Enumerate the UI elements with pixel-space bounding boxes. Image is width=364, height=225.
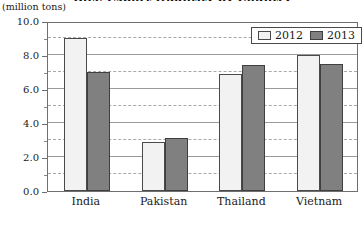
- bar-group: [48, 23, 126, 191]
- bar-group: [281, 23, 358, 191]
- bar-pakistan-2012[interactable]: [142, 142, 165, 191]
- legend-item-2012[interactable]: 2012: [258, 30, 303, 41]
- x-axis-label-vietnam: Vietnam: [296, 195, 342, 208]
- bar-group: [204, 23, 282, 191]
- y-axis-tick-label: 2.0: [23, 153, 39, 163]
- x-axis-label-india: India: [72, 195, 101, 208]
- y-axis-tick-label: 6.0: [23, 85, 39, 95]
- legend-swatch-2013: [310, 31, 323, 40]
- bar-thailand-2013[interactable]: [242, 65, 265, 191]
- legend-swatch-2012: [258, 31, 271, 40]
- bar-thailand-2012[interactable]: [219, 74, 242, 191]
- chart-legend: 20122013: [251, 27, 362, 44]
- bar-india-2012[interactable]: [64, 38, 87, 191]
- y-axis-tick-label: 10.0: [17, 17, 39, 27]
- legend-label: 2012: [275, 30, 303, 41]
- legend-item-2013[interactable]: 2013: [310, 30, 355, 41]
- bar-vietnam-2013[interactable]: [320, 64, 343, 192]
- x-axis-label-pakistan: Pakistan: [140, 195, 187, 208]
- y-axis-tick-label: 0.0: [23, 187, 39, 197]
- bar-pakistan-2013[interactable]: [165, 138, 188, 191]
- bar-group: [126, 23, 204, 191]
- y-axis-tick: [42, 192, 47, 193]
- legend-label: 2013: [327, 30, 355, 41]
- y-axis-tick-label: 4.0: [23, 119, 39, 129]
- x-axis: IndiaPakistanThailandVietnam: [47, 195, 358, 215]
- y-axis-tick-label: 8.0: [23, 51, 39, 61]
- y-axis-unit-label: (million tons): [2, 1, 66, 12]
- y-axis: 0.02.04.06.08.010.0: [0, 22, 47, 192]
- plot-area: [47, 22, 358, 192]
- bar-india-2013[interactable]: [87, 72, 110, 191]
- bar-vietnam-2012[interactable]: [297, 55, 320, 191]
- x-axis-label-thailand: Thailand: [217, 195, 266, 208]
